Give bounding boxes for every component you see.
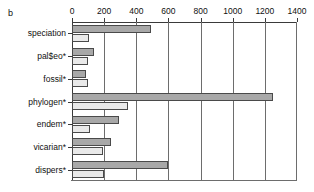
x-tick-mark <box>265 18 266 22</box>
y-axis-label: phylogen* <box>28 97 66 107</box>
bar-group <box>72 22 297 45</box>
plot-area <box>72 22 297 181</box>
bar-group <box>72 45 297 68</box>
x-tick-label: 1200 <box>255 7 274 16</box>
y-axis-label: pal$eo* <box>37 51 66 61</box>
bar-light <box>72 102 128 110</box>
bar-group <box>72 136 297 159</box>
x-tick-mark <box>233 18 234 22</box>
bar-chart-figure: b 0200400600800100012001400 speciationpa… <box>0 0 314 192</box>
bar-dark <box>72 161 168 169</box>
y-axis-label: vicarian* <box>33 142 66 152</box>
bar-group <box>72 90 297 113</box>
bar-dark <box>72 93 273 101</box>
bar-light <box>72 170 104 178</box>
x-tick-label: 800 <box>193 7 207 16</box>
x-tick-mark <box>72 18 73 22</box>
bar-group <box>72 113 297 136</box>
x-tick-label: 0 <box>70 7 75 16</box>
y-axis-label: dispers* <box>35 165 66 175</box>
x-tick-label: 200 <box>97 7 111 16</box>
bar-dark <box>72 116 119 124</box>
bar-light <box>72 34 89 42</box>
panel-label: b <box>8 8 13 18</box>
bar-light <box>72 57 88 65</box>
bar-group <box>72 67 297 90</box>
bar-light <box>72 79 88 87</box>
y-axis-label: speciation <box>28 28 66 38</box>
x-tick-label: 1400 <box>288 7 307 16</box>
x-tick-mark <box>201 18 202 22</box>
bar-light <box>72 147 103 155</box>
x-tick-label: 1000 <box>223 7 242 16</box>
y-axis-label: fossil* <box>43 74 66 84</box>
x-tick-label: 600 <box>161 7 175 16</box>
bar-group <box>72 158 297 181</box>
x-tick-mark <box>104 18 105 22</box>
bar-light <box>72 125 90 133</box>
x-tick-label: 400 <box>129 7 143 16</box>
bar-dark <box>72 70 86 78</box>
bar-dark <box>72 25 151 33</box>
y-axis-label: endem* <box>37 119 66 129</box>
x-tick-mark <box>136 18 137 22</box>
y-axis-category-labels: speciationpal$eo*fossil*phylogen*endem*v… <box>0 22 70 181</box>
x-tick-mark <box>297 18 298 22</box>
x-tick-mark <box>168 18 169 22</box>
bar-dark <box>72 138 111 146</box>
bar-dark <box>72 48 94 56</box>
